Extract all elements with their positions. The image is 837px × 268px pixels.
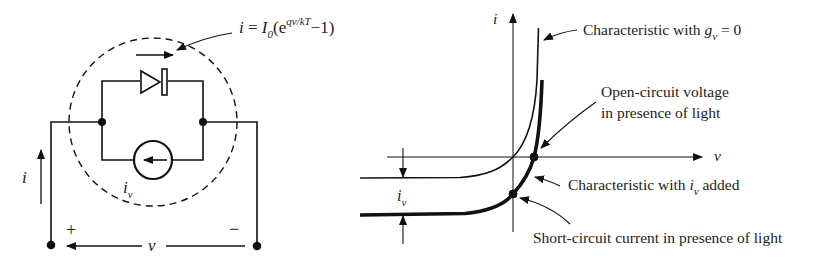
terminal-voltage-label: v [148, 236, 156, 256]
circuit-diagram [41, 33, 261, 250]
annotation-open-circuit-line1: Open-circuit voltage [601, 83, 729, 101]
annotation-gv-zero-prefix: Characteristic with [583, 21, 704, 38]
diode-equation: i = I0(eqv/kT−1) [239, 18, 334, 38]
i-axis-label: i [493, 10, 497, 28]
annotation-gv-zero-var: g [704, 21, 712, 38]
junction-dot-left [99, 119, 105, 125]
terminal-plus [48, 242, 55, 249]
diode-icon [141, 69, 167, 95]
annotation-open-circuit-line2: in presence of light [601, 104, 720, 122]
annotation-gv-zero-suffix: = 0 [717, 21, 741, 38]
annotation-iv-added-sub: v [694, 185, 699, 197]
minus-sign: − [229, 219, 239, 240]
plus-sign: + [66, 220, 76, 241]
annotation-iv-added-prefix: Characteristic with [568, 176, 689, 193]
equation-I-subscript: 0 [268, 28, 274, 40]
annotation-gv-zero-sub: v [712, 30, 717, 42]
iv-graph [360, 14, 702, 244]
source-current-label-sub: v [128, 188, 133, 200]
offset-label-sub: v [401, 196, 406, 208]
equation-equals: = [244, 18, 262, 37]
short-circuit-point [509, 190, 517, 198]
leader-iv-added-icon [535, 177, 560, 186]
v-axis-label: v [714, 147, 721, 165]
left-terminal-wire [51, 122, 102, 245]
leader-gv-zero-icon [544, 30, 577, 40]
equation-exponent: qv/kT [286, 15, 310, 27]
terminal-current-label: i [22, 168, 27, 188]
annotation-short-circuit: Short-circuit current in presence of lig… [533, 229, 782, 247]
curve-gv-zero [360, 28, 539, 178]
equation-I: I [262, 18, 268, 37]
current-source-icon [134, 141, 172, 179]
annotation-iv-added: Characteristic with iv added [568, 176, 739, 194]
equation-open: (e [273, 18, 286, 37]
open-circuit-point [530, 153, 538, 161]
annotation-iv-added-suffix: added [699, 176, 740, 193]
equation-leader-arrow-icon [177, 33, 232, 50]
offset-label: iv [397, 187, 406, 205]
leader-short-circuit-icon [520, 198, 570, 224]
leader-open-circuit-icon [541, 102, 596, 148]
annotation-gv-zero: Characteristic with gv = 0 [583, 21, 741, 39]
source-current-label: iv [123, 178, 133, 198]
junction-dot-right [200, 119, 206, 125]
terminal-minus [254, 243, 261, 250]
equation-tail: −1) [311, 18, 335, 37]
